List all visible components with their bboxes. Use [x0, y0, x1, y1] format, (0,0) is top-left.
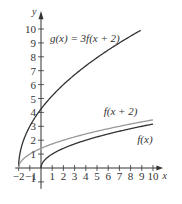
x-tick-label: −2	[13, 170, 25, 182]
curves	[19, 30, 153, 168]
y-tick-label: 3	[31, 120, 37, 132]
x-tick-label: 7	[117, 170, 123, 182]
y-tick-label: 4	[31, 106, 37, 118]
y-tick-label: 5	[31, 93, 37, 105]
label-f: f(x)	[137, 133, 153, 146]
x-tick-label: 8	[128, 170, 134, 182]
x-tick-label: 10	[148, 170, 160, 182]
labels: xy−2−112345678910112345678910g(x) = 3f(x…	[13, 6, 168, 184]
x-axis-label: x	[162, 170, 168, 181]
y-axis-label: y	[31, 6, 37, 17]
y-tick-label: 9	[31, 37, 37, 49]
curve-g	[19, 30, 141, 168]
x-tick-label: 2	[61, 170, 67, 182]
y-axis-arrow-icon	[39, 11, 44, 19]
x-tick-label: 1	[49, 170, 55, 182]
y-tick-label: 1	[31, 148, 37, 160]
y-tick-label: 2	[31, 134, 37, 146]
label-f-shifted: f(x + 2)	[104, 105, 138, 118]
function-graph: xy−2−112345678910112345678910g(x) = 3f(x…	[0, 0, 182, 204]
x-tick-label: 5	[94, 170, 100, 182]
curve-f-shifted	[19, 120, 153, 168]
y-tick-label: 6	[31, 79, 37, 91]
label-g: g(x) = 3f(x + 2)	[50, 32, 120, 45]
y-tick-label: 7	[31, 65, 37, 77]
y-tick-label: 10	[25, 23, 37, 35]
y-tick-label: 8	[31, 51, 37, 63]
x-tick-label: 3	[72, 170, 78, 182]
x-tick-label: 6	[105, 170, 111, 182]
x-tick-label: 4	[83, 170, 89, 182]
x-tick-label: 9	[139, 170, 145, 182]
y-tick-label: 1	[31, 172, 37, 184]
